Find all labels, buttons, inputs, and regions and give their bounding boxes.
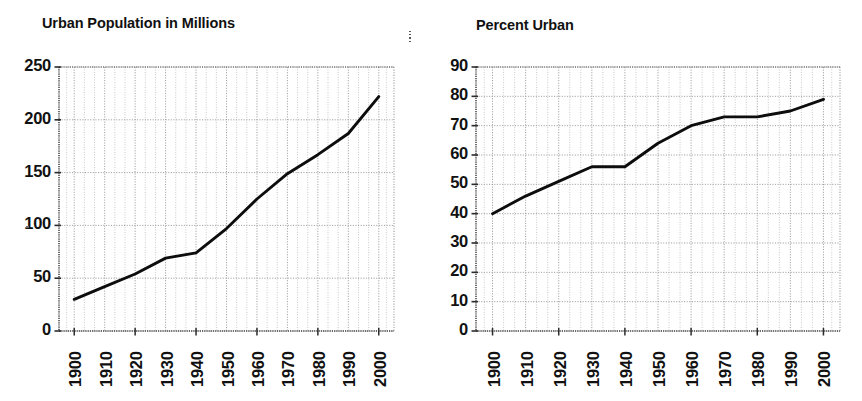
figure-canvas: Urban Population in Millions 05010015020… bbox=[0, 0, 862, 401]
x-tick-label: 1940 bbox=[617, 351, 636, 387]
x-tick-label: 1930 bbox=[584, 351, 603, 387]
y-tick-label: 20 bbox=[424, 261, 468, 280]
y-tick-label: 0 bbox=[424, 320, 468, 339]
y-tick-label: 50 bbox=[7, 267, 51, 286]
x-tick-label: 1940 bbox=[188, 351, 207, 387]
x-tick-label: 1980 bbox=[749, 351, 768, 387]
y-tick-label: 0 bbox=[7, 320, 51, 339]
scan-artifact-speck bbox=[26, 226, 29, 228]
y-tick-label: 150 bbox=[7, 162, 51, 181]
x-tick-label: 1990 bbox=[340, 351, 359, 387]
scan-artifact-dots bbox=[409, 31, 411, 43]
plot-area-urban-population bbox=[0, 0, 431, 401]
y-tick-label: 10 bbox=[424, 291, 468, 310]
y-tick-label: 40 bbox=[424, 203, 468, 222]
y-tick-label: 80 bbox=[424, 85, 468, 104]
x-tick-label: 1920 bbox=[127, 351, 146, 387]
x-tick-label: 1970 bbox=[716, 351, 735, 387]
y-tick-label: 100 bbox=[7, 214, 51, 233]
x-tick-label: 1920 bbox=[551, 351, 570, 387]
y-tick-label: 250 bbox=[7, 56, 51, 75]
y-tick-label: 70 bbox=[424, 115, 468, 134]
plot-area-percent-urban bbox=[431, 0, 862, 401]
chart-panel-urban-population: Urban Population in Millions 05010015020… bbox=[0, 0, 431, 401]
y-tick-label: 50 bbox=[424, 173, 468, 192]
y-tick-label: 60 bbox=[424, 144, 468, 163]
x-tick-label: 2000 bbox=[815, 351, 834, 387]
x-tick-label: 1910 bbox=[97, 351, 116, 387]
x-tick-label: 1930 bbox=[158, 351, 177, 387]
x-tick-label: 2000 bbox=[371, 351, 390, 387]
y-tick-label: 90 bbox=[424, 56, 468, 75]
x-tick-label: 1990 bbox=[782, 351, 801, 387]
x-tick-label: 1950 bbox=[219, 351, 238, 387]
y-tick-label: 200 bbox=[7, 109, 51, 128]
y-tick-label: 30 bbox=[424, 232, 468, 251]
x-tick-label: 1950 bbox=[650, 351, 669, 387]
x-tick-label: 1910 bbox=[518, 351, 537, 387]
x-tick-label: 1960 bbox=[683, 351, 702, 387]
x-tick-label: 1980 bbox=[310, 351, 329, 387]
x-tick-label: 1900 bbox=[66, 351, 85, 387]
x-tick-label: 1900 bbox=[485, 351, 504, 387]
chart-panel-percent-urban: Percent Urban 0102030405060708090 190019… bbox=[431, 0, 862, 401]
x-tick-label: 1960 bbox=[249, 351, 268, 387]
x-tick-label: 1970 bbox=[279, 351, 298, 387]
